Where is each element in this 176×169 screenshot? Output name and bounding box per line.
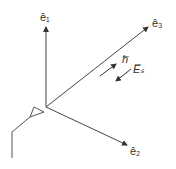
- antenna-icon: [12, 107, 44, 158]
- label-e1: ê₁: [40, 11, 50, 23]
- label-h: h̅: [122, 53, 128, 65]
- coordinate-diagram: ê₁ ê₃ ê₂ h̅ E̅ₛ: [0, 0, 176, 169]
- label-Es: E̅ₛ: [133, 63, 144, 76]
- label-e2: ê₂: [130, 145, 140, 157]
- label-e3: ê₃: [152, 17, 163, 29]
- arrow-Es: [116, 69, 131, 81]
- axis-e2: [46, 107, 127, 145]
- arrow-h: [100, 64, 116, 76]
- axes-drawing: [0, 0, 176, 169]
